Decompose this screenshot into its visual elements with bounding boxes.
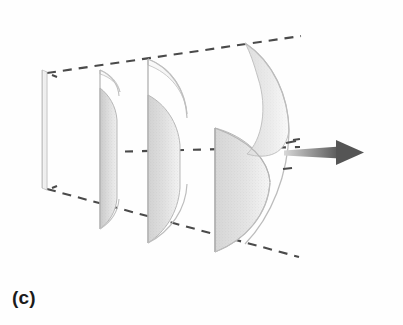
flat-wavefront-plate-highlight — [43, 71, 44, 189]
guide-stub-lower — [283, 168, 292, 169]
figure-container: (c) — [0, 0, 403, 325]
wavefront-propagation-diagram — [0, 0, 403, 325]
panel-label: (c) — [12, 288, 36, 307]
flat-wavefront-plate-body — [42, 70, 47, 190]
figure-background — [0, 0, 403, 325]
guide-edge-right-upper — [293, 139, 300, 140]
surface-1-flat — [42, 70, 47, 190]
slightly-curved-wavefront-texture — [100, 88, 117, 229]
